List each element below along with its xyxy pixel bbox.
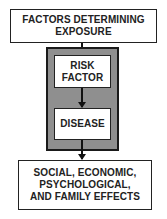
arrow-down-icon [81, 140, 83, 159]
effects-line-3: AND FAMILY EFFECTS [30, 191, 140, 203]
effects-box: SOCIAL, ECONOMIC, PSYCHOLOGICAL, AND FAM… [18, 160, 152, 210]
exposure-factors-box: FACTORS DETERMINING EXPOSURE [10, 9, 157, 43]
risk-factor-line-1: RISK [62, 60, 104, 72]
exposure-line-1: FACTORS DETERMINING [22, 14, 144, 26]
arrow-down-icon [81, 88, 83, 107]
risk-factor-box: RISK FACTOR [54, 55, 111, 88]
effects-line-2: PSYCHOLOGICAL, [30, 179, 140, 191]
disease-box: DISEASE [54, 108, 111, 140]
risk-factor-line-2: FACTOR [62, 72, 104, 84]
exposure-line-2: EXPOSURE [22, 26, 144, 38]
effects-line-1: SOCIAL, ECONOMIC, [30, 167, 140, 179]
disease-label: DISEASE [60, 118, 105, 130]
